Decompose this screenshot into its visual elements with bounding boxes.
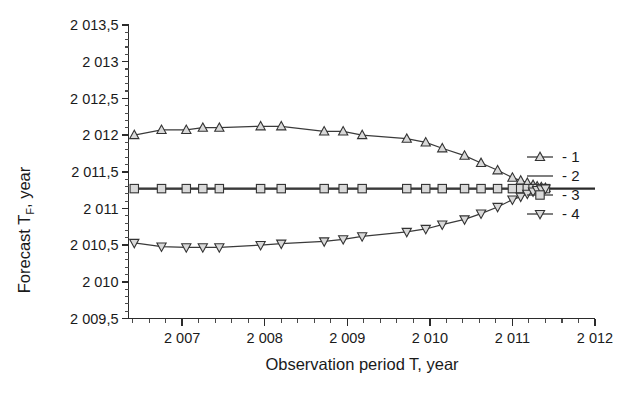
y-axis-ticks <box>122 25 129 319</box>
series-1 <box>130 121 550 191</box>
chart-canvas: 2 009,52 0102 010,52 0112 011,52 0122 01… <box>0 0 627 393</box>
data-point-marker <box>536 191 544 199</box>
x-axis-label: Observation period T, year <box>265 355 459 373</box>
data-point-marker <box>358 184 366 192</box>
data-point-marker <box>339 184 347 192</box>
x-tick-label: 2 011 <box>495 330 530 346</box>
data-point-marker <box>477 184 485 192</box>
data-point-marker <box>182 184 190 192</box>
data-point-marker <box>493 165 502 173</box>
x-tick-label: 2 010 <box>412 330 448 346</box>
x-tick-label: 2 009 <box>329 330 365 346</box>
series-3 <box>130 184 550 192</box>
legend-label-2: - 2 <box>562 167 580 184</box>
data-point-marker <box>508 196 517 204</box>
axes-group: 2 009,52 0102 010,52 0112 011,52 0122 01… <box>70 17 613 345</box>
data-point-marker <box>508 173 517 181</box>
data-point-marker <box>182 244 191 252</box>
legend-item-1[interactable]: - 1 <box>527 148 580 165</box>
legend-item-4[interactable]: - 4 <box>527 205 580 222</box>
x-axis-ticks <box>133 319 595 327</box>
data-point-marker <box>157 184 165 192</box>
y-tick-label: 2 011,5 <box>71 164 118 180</box>
y-tick-label: 2 010 <box>82 274 118 290</box>
legend-label-3: - 3 <box>562 186 580 203</box>
data-point-marker <box>130 184 138 192</box>
axis-titles: Forecast TF, year Observation period T, … <box>15 166 459 373</box>
axis-frame <box>129 25 596 319</box>
data-point-marker <box>422 184 430 192</box>
x-axis-tick-labels: 2 0072 0082 0092 0102 0112 012 <box>164 330 613 346</box>
data-point-marker <box>256 184 264 192</box>
data-point-marker <box>320 184 328 192</box>
data-point-marker <box>508 184 516 192</box>
data-point-marker <box>339 127 348 135</box>
legend-label-4: - 4 <box>562 205 580 222</box>
data-point-marker <box>199 184 207 192</box>
y-axis-label: Forecast TF, year <box>15 166 36 293</box>
data-point-marker <box>493 184 501 192</box>
y-tick-label: 2 009,5 <box>70 311 118 327</box>
x-tick-label: 2 012 <box>577 330 613 346</box>
data-point-marker <box>438 184 446 192</box>
chart-figure: 2 009,52 0102 010,52 0112 011,52 0122 01… <box>0 0 627 393</box>
y-tick-label: 2 013 <box>82 54 118 70</box>
data-point-marker <box>198 244 207 252</box>
y-tick-label: 2 010,5 <box>70 237 118 253</box>
data-point-marker <box>460 184 468 192</box>
axis-lines <box>129 25 596 319</box>
data-point-marker <box>215 244 224 252</box>
data-point-marker <box>157 125 166 133</box>
legend-item-2[interactable]: - 2 <box>527 167 580 184</box>
data-point-marker <box>256 121 265 129</box>
y-tick-label: 2 011 <box>83 201 118 217</box>
y-tick-label: 2 012 <box>82 127 118 143</box>
data-point-marker <box>277 184 285 192</box>
series-4 <box>130 185 550 252</box>
data-point-marker <box>403 184 411 192</box>
data-series-group <box>130 121 595 252</box>
y-axis-tick-labels: 2 009,52 0102 010,52 0112 011,52 0122 01… <box>70 17 118 327</box>
data-point-marker <box>198 123 207 131</box>
x-tick-label: 2 008 <box>247 330 283 346</box>
legend-label-1: - 1 <box>562 148 580 165</box>
data-point-marker <box>277 121 286 129</box>
y-tick-label: 2 012,5 <box>70 91 118 107</box>
y-tick-label: 2 013,5 <box>70 17 118 33</box>
data-point-marker <box>476 158 485 166</box>
data-point-marker <box>215 184 223 192</box>
x-tick-label: 2 007 <box>164 330 200 346</box>
